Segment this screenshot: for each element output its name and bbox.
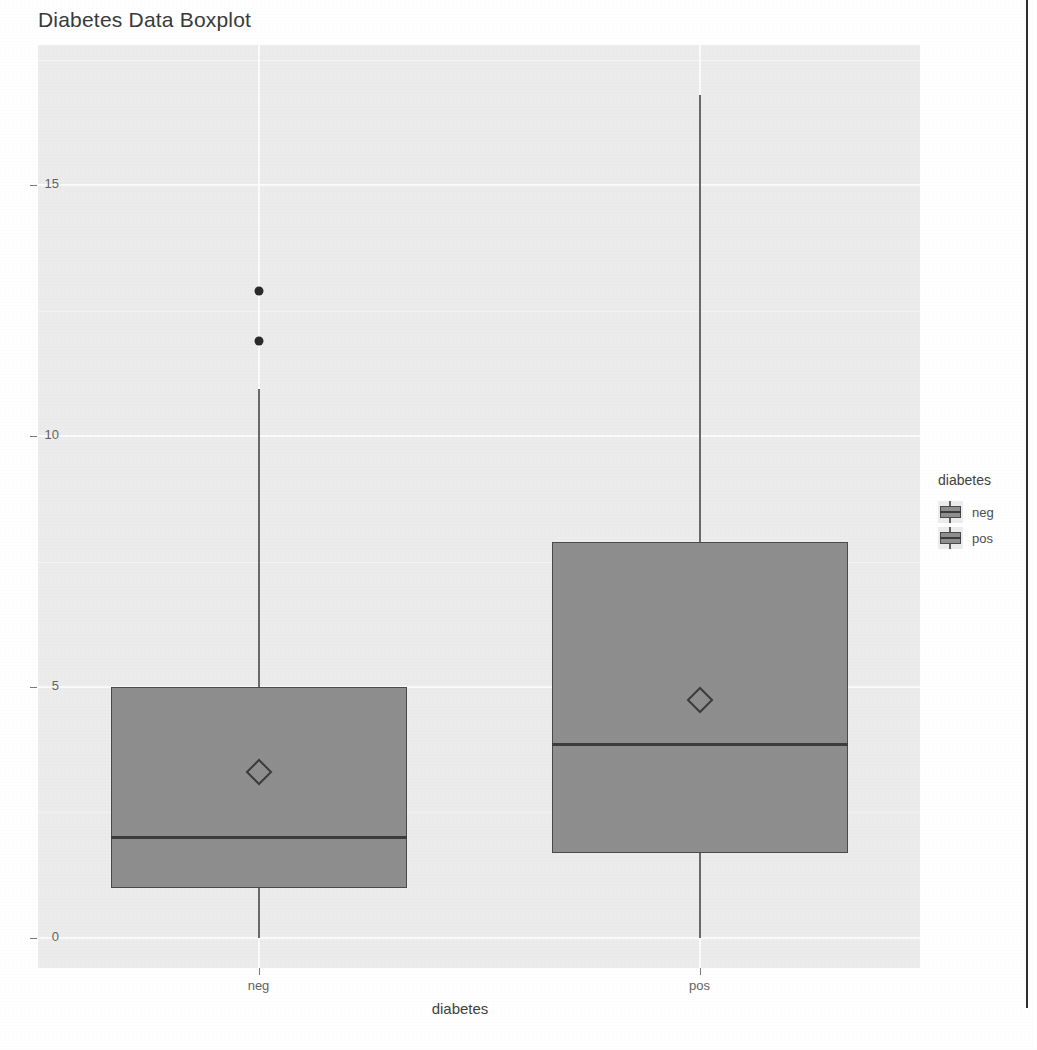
legend-key-boxplot-icon: [938, 501, 963, 523]
legend-item-label: neg: [972, 505, 994, 520]
median-line-neg: [111, 836, 407, 839]
x-axis-tick-mark: [259, 968, 260, 975]
x-axis-tick-label-neg: neg: [248, 978, 270, 993]
legend: diabetes negpos: [938, 472, 1024, 551]
gridline-y-major: [38, 435, 920, 437]
y-axis-tick-label: 15: [45, 176, 59, 191]
legend-key-median: [940, 537, 961, 539]
legend-title: diabetes: [938, 472, 1024, 488]
whisker-lower-neg: [258, 888, 260, 938]
y-axis-tick-mark: [30, 687, 37, 688]
whisker-lower-pos: [699, 853, 701, 938]
x-axis-tick-label-pos: pos: [689, 978, 710, 993]
y-axis-tick-label: 5: [52, 678, 59, 693]
y-axis-tick-mark: [30, 185, 37, 186]
y-axis-tick-label: 10: [45, 427, 59, 442]
legend-key-median: [940, 511, 961, 513]
whisker-upper-neg: [258, 389, 260, 687]
median-line-pos: [552, 743, 848, 746]
x-axis-title: diabetes: [0, 1000, 920, 1017]
legend-item-neg[interactable]: neg: [938, 499, 1024, 525]
outlier-point-neg: [254, 286, 263, 295]
x-axis-tick-mark: [700, 968, 701, 975]
scan-page-edge-line: [1026, 0, 1028, 1008]
gridline-y-major: [38, 937, 920, 939]
legend-item-pos[interactable]: pos: [938, 525, 1024, 551]
page-title: Diabetes Data Boxplot: [38, 8, 251, 32]
legend-items: negpos: [938, 499, 1024, 551]
whisker-upper-pos: [699, 95, 701, 541]
box-neg: [111, 687, 407, 888]
gridline-y-minor: [38, 311, 920, 312]
y-axis-tick-mark: [30, 938, 37, 939]
legend-item-label: pos: [972, 531, 993, 546]
y-axis-tick-label: 0: [52, 929, 59, 944]
plot-panel: [38, 45, 920, 968]
gridline-y-minor: [38, 60, 920, 61]
boxplot-figure: Diabetes Data Boxplot diabetes diabetes …: [0, 0, 1037, 1050]
legend-key-boxplot-icon: [938, 527, 963, 549]
outlier-point-neg: [254, 336, 263, 345]
y-axis-tick-mark: [30, 436, 37, 437]
gridline-y-major: [38, 184, 920, 186]
